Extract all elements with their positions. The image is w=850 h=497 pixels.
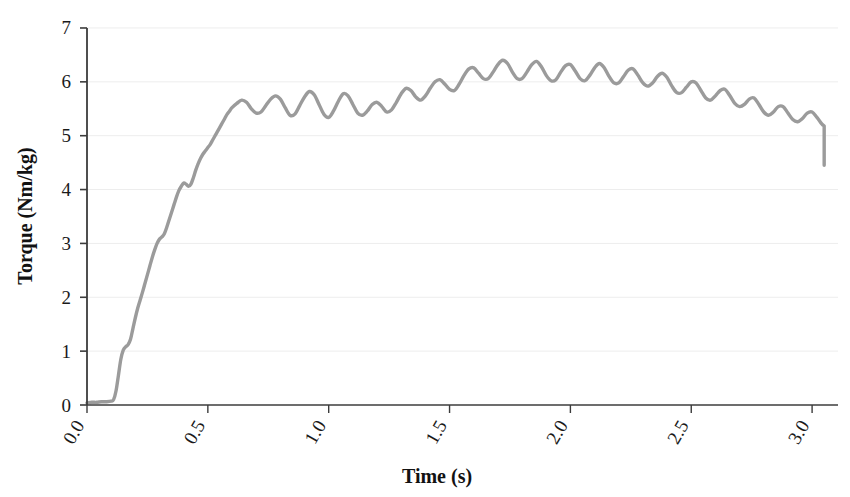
- y-axis-tick-label: 5: [62, 125, 72, 146]
- torque-time-line-chart: 01234567 0.00.51.01.52.02.53.0 Torque (N…: [0, 0, 850, 497]
- y-axis-tick-label: 6: [62, 71, 72, 92]
- x-axis-title: Time (s): [402, 465, 472, 488]
- y-axis-tick-label: 3: [62, 233, 72, 254]
- y-axis-tick-label: 4: [62, 179, 72, 200]
- y-axis-title: Torque (Nm/kg): [14, 147, 37, 284]
- chart-page: 01234567 0.00.51.01.52.02.53.0 Torque (N…: [0, 0, 850, 497]
- y-axis-tick-label: 0: [62, 395, 72, 416]
- chart-background: [0, 0, 850, 497]
- y-axis-tick-label: 7: [62, 17, 72, 38]
- y-axis-tick-label: 2: [62, 287, 72, 308]
- y-axis-tick-label: 1: [62, 341, 72, 362]
